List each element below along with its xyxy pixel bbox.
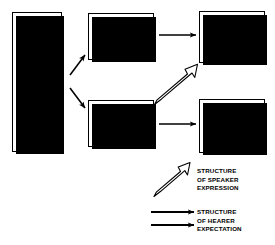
node-doorkeeper[interactable]: DOOR- KEEPER [LAW?] (G) (12, 12, 62, 152)
arrow-doorkeeper-to-admittance (70, 55, 85, 75)
legend-hollow-arrow-icon (154, 163, 190, 197)
diagram-canvas: DOOR- KEEPER [LAW?] (G) ADMITTANCE (O +)… (0, 0, 275, 245)
hollow-speaker-arrow-icon (155, 64, 198, 104)
node-no-admittance-label: NO ADMITTANCE (O - ) (98, 111, 143, 136)
node-those-intended-label: THOSE FOR (R +) WHOM DOOR WAS INTENDED (212, 20, 253, 54)
node-doorkeeper-label: DOOR- KEEPER [LAW?] (G) (22, 65, 52, 99)
arrow-doorkeeper-to-no-admittance (70, 88, 85, 108)
node-admittance[interactable]: ADMITTANCE (O +) (88, 13, 154, 60)
node-admittance-label: ADMITTANCE (O +) (98, 28, 143, 45)
node-those-not-intended[interactable]: THOSE FOR (R - ) WHOM DOOR WAS NOT INTEN… (199, 99, 265, 153)
node-no-admittance[interactable]: NO ADMITTANCE (O - ) (88, 100, 154, 147)
legend-speaker-label: STRUCTURE OF SPEAKER EXPRESSION (197, 167, 239, 193)
node-those-not-intended-label: THOSE FOR (R - ) WHOM DOOR WAS NOT INTEN… (206, 109, 258, 143)
node-those-intended[interactable]: THOSE FOR (R +) WHOM DOOR WAS INTENDED (199, 11, 265, 63)
legend-hearer-label: STRUCTURE OF HEARER EXPECTATION (197, 208, 242, 234)
